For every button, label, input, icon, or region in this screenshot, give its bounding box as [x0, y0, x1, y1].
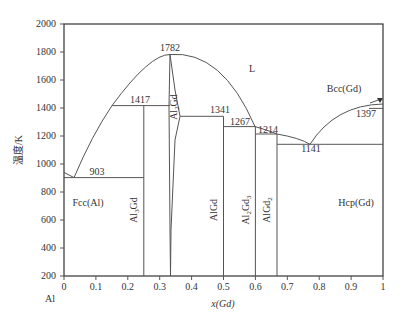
- x-tick-label: 1: [381, 281, 386, 292]
- phase-label-hcp: Hcp(Gd): [338, 197, 374, 209]
- x-tick-label: 0.1: [90, 281, 103, 292]
- y-tick-label: 1000: [36, 158, 56, 169]
- compound-lines: [144, 55, 277, 277]
- y-tick-label: 1400: [36, 102, 56, 113]
- phase-label-bcc: Bcc(Gd): [327, 83, 361, 95]
- y-tick-label: 400: [41, 242, 56, 253]
- phase-diagram: 200 400 600 800 1000 1200 1400 1600 1800…: [0, 0, 400, 325]
- temp-label: 1397: [356, 108, 376, 119]
- y-tick-label: 1600: [36, 74, 56, 85]
- x-tick-label: 0.6: [249, 281, 262, 292]
- x-tick-label: 0.4: [185, 281, 198, 292]
- x-axis: 0 0.1 0.2 0.3 0.4 0.5 0.6 0.7 0.8 0.9 1: [62, 276, 386, 292]
- phase-label-algd2: AlGd2: [261, 197, 274, 223]
- x-tick-label: 0.8: [313, 281, 326, 292]
- temp-label: 1141: [301, 143, 321, 154]
- y-tick-label: 200: [41, 270, 56, 281]
- temp-label: 1341: [210, 104, 230, 115]
- temp-label: 1267: [230, 116, 250, 127]
- x-tick-label: 0.2: [122, 281, 135, 292]
- phase-label-al2gd: Al2Gd: [168, 94, 181, 120]
- y-axis: 200 400 600 800 1000 1200 1400 1600 1800…: [36, 18, 64, 281]
- y-tick-label: 800: [41, 186, 56, 197]
- temp-label: 1417: [130, 94, 150, 105]
- x-tick-label: 0.3: [153, 281, 166, 292]
- temp-label: 1782: [160, 42, 180, 53]
- x-axis-title: x(Gd): [210, 298, 235, 310]
- x-tick-label: 0.5: [217, 281, 230, 292]
- y-tick-label: 1800: [36, 46, 56, 57]
- temp-label: 903: [90, 166, 105, 177]
- x-tick-label: 0.9: [345, 281, 358, 292]
- phase-label-fcc: Fcc(Al): [72, 197, 103, 209]
- phase-label-al3gd: Al3Gd: [128, 197, 141, 223]
- x-left-label: Al: [45, 293, 55, 304]
- y-axis-title: 温度/K: [12, 134, 24, 165]
- x-tick-label: 0: [62, 281, 67, 292]
- phase-label-algd: AlGd: [208, 199, 219, 221]
- y-tick-label: 2000: [36, 18, 56, 29]
- y-tick-label: 600: [41, 214, 56, 225]
- phase-label-liquid: L: [249, 63, 255, 74]
- x-tick-label: 0.7: [281, 281, 294, 292]
- phase-label-al2gd3: Al2Gd3: [240, 195, 253, 225]
- temp-label: 1214: [258, 124, 278, 135]
- y-tick-label: 1200: [36, 130, 56, 141]
- temperature-annotations: 1782 1417 1341 1267 1214 1141 903 1397: [90, 42, 377, 177]
